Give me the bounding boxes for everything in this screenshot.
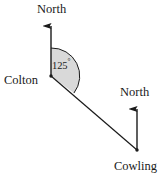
- label-north-cowling: North: [120, 86, 149, 99]
- degree-symbol-icon: °: [67, 57, 70, 66]
- vertex-dot-colton: [49, 74, 52, 77]
- label-north-colton: North: [37, 3, 66, 16]
- label-cowling: Cowling: [114, 160, 157, 173]
- angle-value: 125: [52, 60, 67, 71]
- label-colton: Colton: [4, 74, 38, 87]
- label-angle-measure: 125°: [52, 58, 70, 71]
- bearing-diagram: North North Colton Cowling 125°: [0, 0, 168, 177]
- vertex-dot-cowling: [135, 148, 138, 151]
